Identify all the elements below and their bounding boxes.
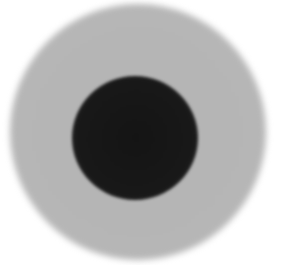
image-canvas: Grayscale image of a blurred light-gray … <box>0 0 284 265</box>
inner-dark-disk <box>72 76 198 200</box>
